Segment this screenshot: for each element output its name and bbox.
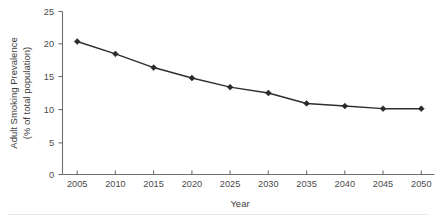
x-tick-label-2050: 2050: [411, 179, 431, 189]
data-point: [113, 51, 119, 57]
y-tick-label-20: 20: [44, 39, 54, 49]
chart-figure: 0 5 10 15 20 25 2005 2010 2015 2020 2025…: [0, 0, 448, 219]
data-point: [265, 90, 271, 96]
x-axis-title: Year: [230, 198, 249, 209]
x-tick-label-2045: 2045: [373, 179, 393, 189]
x-axis-ticks: [77, 171, 421, 175]
data-point: [151, 65, 157, 71]
data-point: [189, 75, 195, 81]
data-point: [380, 106, 386, 112]
x-tick-label-2035: 2035: [296, 179, 316, 189]
x-tick-label-2040: 2040: [335, 179, 355, 189]
y-axis-title-line2: (% of total population): [21, 47, 32, 139]
data-point: [227, 84, 233, 90]
data-point: [342, 103, 348, 109]
x-tick-label-2020: 2020: [182, 179, 202, 189]
line-chart-canvas: 0 5 10 15 20 25 2005 2010 2015 2020 2025…: [0, 0, 448, 219]
x-tick-label-2015: 2015: [143, 179, 163, 189]
y-tick-label-0: 0: [49, 170, 54, 180]
y-tick-label-25: 25: [44, 7, 54, 17]
x-tick-label-2010: 2010: [105, 179, 125, 189]
y-axis-ticks: [59, 12, 63, 175]
x-tick-label-2025: 2025: [220, 179, 240, 189]
x-tick-label-2005: 2005: [67, 179, 87, 189]
y-tick-label-10: 10: [44, 105, 54, 115]
y-axis-title-line1: Adult Smoking Prevalence: [8, 37, 19, 148]
y-axis-title: Adult Smoking Prevalence (% of total pop…: [8, 37, 32, 148]
smoking-prevalence-line: [77, 41, 421, 108]
footer-divider: [8, 214, 428, 215]
y-tick-label-5: 5: [49, 138, 54, 148]
y-tick-label-15: 15: [44, 72, 54, 82]
data-point: [74, 39, 80, 45]
x-tick-label-2030: 2030: [258, 179, 278, 189]
data-point: [418, 106, 424, 112]
data-point: [304, 101, 310, 107]
smoking-prevalence-markers: [74, 39, 424, 112]
